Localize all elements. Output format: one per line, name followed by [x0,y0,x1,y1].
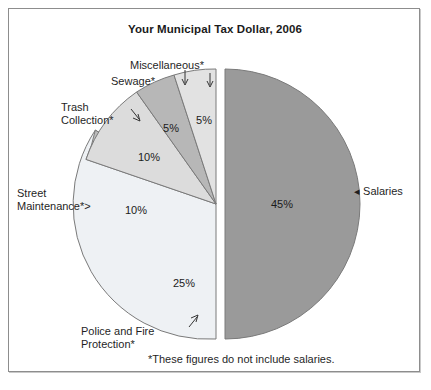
pie-label-miscellaneous: Miscellaneous* [130,59,204,72]
pie-label-street-maintenance-line2: Maintenance*> [17,200,113,213]
pie-label-trash-collection: Trash Collection* [61,101,141,127]
chart-page: Your Municipal Tax Dollar, 2006 45% 5% 5… [0,0,431,390]
pie-value-salaries: 45% [271,198,293,210]
pie-value-street: 10% [125,204,147,216]
pie-value-sewage: 5% [163,122,179,134]
pie-label-sewage: Sewage* [111,75,155,88]
pie-value-trash: 10% [138,151,160,163]
pie-value-police: 25% [173,277,195,289]
chart-frame: Your Municipal Tax Dollar, 2006 45% 5% 5… [8,8,420,372]
pie-label-police-and-fire: Police and Fire Protection* [81,325,191,351]
pie-label-trash-collection-line1: Trash [61,101,141,114]
chart-footnote: *These figures do not include salaries. [148,353,335,365]
pie-label-street-maintenance-line1: Street [17,187,113,200]
pie-label-street-maintenance: Street Maintenance*> [17,187,113,213]
pie-value-miscellaneous: 5% [196,114,212,126]
pie-label-police-and-fire-line2: Protection* [81,338,191,351]
pie-label-police-and-fire-line1: Police and Fire [81,325,191,338]
pie-label-salaries: ◂ Salaries [354,185,403,198]
pie-label-trash-collection-line2: Collection* [61,114,141,127]
